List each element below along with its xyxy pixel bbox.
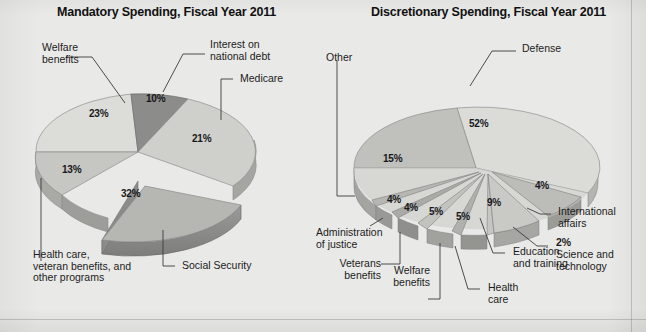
label-defense: Defense <box>522 43 561 55</box>
pct-welfare-benefits-discretionary: 5% <box>429 206 443 217</box>
pct-social-security: 32% <box>121 188 140 199</box>
mandatory-slice-welfare <box>36 94 138 152</box>
leader-interest-mandatory <box>163 54 205 92</box>
pct-welfare-benefits-mandatory: 23% <box>89 108 108 119</box>
label-health-care-veteran-benefits: Health care, veteran benefits, and other… <box>33 249 131 284</box>
label-other-discretionary: Other <box>326 52 352 64</box>
label-veterans-benefits: Veterans benefits <box>325 258 381 281</box>
pct-medicare: 21% <box>192 133 211 144</box>
label-health-care-discretionary: Health care <box>488 282 518 305</box>
discretionary-veterans-side <box>398 218 418 240</box>
label-social-security: Social Security <box>182 260 251 272</box>
label-interest-national-debt: Interest on national debt <box>210 39 270 62</box>
leader-veterans-discretionary <box>381 232 400 264</box>
label-welfare-benefits-discretionary: Welfare benefits <box>383 265 430 288</box>
label-international-affairs: International affairs <box>558 206 616 229</box>
leader-defense-discretionary <box>470 51 516 86</box>
pct-interest-national-debt: 10% <box>146 93 165 104</box>
pct-international-affairs: 4% <box>535 180 549 191</box>
leader-other-discretionary <box>337 61 355 196</box>
leader-healthcare-discretionary <box>455 246 480 289</box>
pct-other-discretionary: 15% <box>383 153 402 164</box>
pct-health-care-discretionary: 5% <box>456 211 470 222</box>
label-welfare-benefits-mandatory: Welfare benefits <box>42 42 79 65</box>
pct-health-care: 13% <box>62 164 81 175</box>
label-administration-of-justice: Administration of justice <box>316 227 383 250</box>
label-medicare: Medicare <box>240 73 283 85</box>
pct-education-and-training: 9% <box>487 197 501 208</box>
pct-veterans-benefits: 4% <box>404 202 418 213</box>
discretionary-slice-other <box>354 108 476 168</box>
pct-administration-of-justice: 4% <box>387 194 401 205</box>
figure-canvas: Mandatory Spending, Fiscal Year 2011 Dis… <box>0 0 646 332</box>
mandatory-health-side <box>62 195 108 232</box>
label-education-and-training: Education and training <box>513 246 568 269</box>
right-margin-rule <box>631 0 632 332</box>
bottom-rule <box>0 319 646 320</box>
discretionary-healthcare-side <box>461 235 487 249</box>
pct-defense: 52% <box>469 118 488 129</box>
